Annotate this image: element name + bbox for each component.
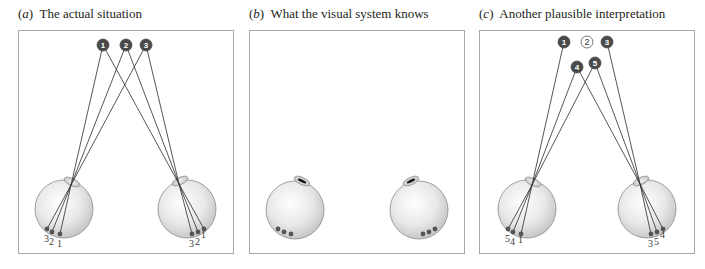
retina-image-dot <box>289 232 294 237</box>
retina-image-dot <box>433 227 438 232</box>
object-point-label: 3 <box>144 41 149 50</box>
retina-label: 3 <box>189 238 194 249</box>
binocular-correspondence-diagram: 32132112354135412345 <box>0 0 705 269</box>
retina-image-dot <box>58 232 63 237</box>
retina-image-dot <box>511 230 516 235</box>
retina-image-dot <box>45 227 50 232</box>
eyeball <box>618 180 676 238</box>
object-point-label: 2 <box>584 37 589 47</box>
retina-label: 1 <box>57 238 62 249</box>
eyeball <box>35 180 93 238</box>
retina-label: 5 <box>654 236 659 247</box>
retina-image-dot <box>506 227 511 232</box>
retina-image-dot <box>276 227 281 232</box>
panel-b <box>250 31 465 254</box>
object-point-label: 1 <box>562 38 567 47</box>
eyeball <box>266 181 324 239</box>
object-point-label: 5 <box>593 59 598 68</box>
panel-c: 54135412345 <box>480 31 695 254</box>
retina-label: 4 <box>510 236 515 247</box>
retina-image-dot <box>649 232 654 237</box>
eyeball <box>158 180 216 238</box>
retina-image-dot <box>421 232 426 237</box>
retina-image-dot <box>196 230 201 235</box>
retina-label: 3 <box>648 238 653 249</box>
retina-image-dot <box>50 230 55 235</box>
panel-a: 321321123 <box>19 31 234 254</box>
object-point-label: 4 <box>575 63 580 72</box>
object-point-label: 3 <box>605 38 610 47</box>
retina-image-dot <box>655 230 660 235</box>
object-point-label: 2 <box>124 41 129 50</box>
retina-image-dot <box>282 230 287 235</box>
retina-label: 2 <box>195 236 200 247</box>
eyeball <box>390 181 448 239</box>
retina-label: 1 <box>518 234 523 245</box>
retina-image-dot <box>190 232 195 237</box>
retina-image-dot <box>427 230 432 235</box>
retina-label: 4 <box>660 229 665 240</box>
retina-label: 1 <box>201 229 206 240</box>
object-point-label: 1 <box>101 41 106 50</box>
retina-label: 2 <box>49 236 54 247</box>
